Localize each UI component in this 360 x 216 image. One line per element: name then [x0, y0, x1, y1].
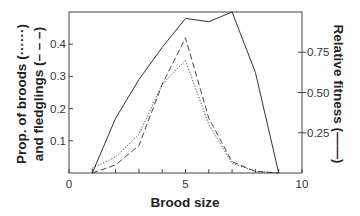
x-axis-title: Brood size — [150, 195, 220, 210]
right-y-axis-ticks: 0.250.500.75 — [298, 46, 329, 139]
plot-frame — [69, 12, 302, 173]
right-y-axis-title: Relative fitness (——) — [331, 25, 346, 164]
left-y-tick-label: 0.4 — [50, 38, 67, 50]
x-tick-label: 10 — [296, 178, 309, 190]
x-tick-label: 0 — [66, 178, 72, 190]
left-y-tick-label: 0.2 — [50, 103, 66, 115]
left-y-tick-label: 0.1 — [50, 135, 66, 147]
series-lines — [92, 12, 278, 173]
x-tick-label: 5 — [182, 178, 188, 190]
relative-fitness-line — [92, 12, 278, 173]
left-y-axis-ticks: 0.10.20.30.4 — [50, 38, 73, 147]
left-y-axis-title-line2: and fledglings (– – –) — [31, 27, 46, 161]
right-y-tick-label: 0.50 — [307, 87, 329, 99]
x-axis-tick-labels: 0510 — [66, 178, 309, 190]
right-y-tick-label: 0.75 — [307, 46, 329, 58]
brood-size-chart: 0510 0.10.20.30.4 0.250.500.75 Brood siz… — [0, 0, 360, 216]
left-y-axis-title-line1: Prop. of broods (······) — [14, 24, 29, 164]
proportion-of-broods-line — [92, 60, 278, 173]
left-y-tick-label: 0.3 — [50, 70, 66, 82]
right-y-tick-label: 0.25 — [307, 127, 329, 139]
proportion-of-fledglings-line — [92, 38, 278, 173]
